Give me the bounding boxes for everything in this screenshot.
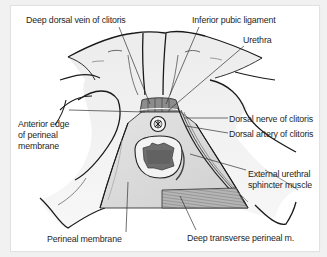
label-inferior-pubic-ligament: Inferior pubic ligament [192,14,276,25]
inferior-pubic-ligament-shape [140,98,180,112]
label-deep-transverse: Deep transverse perineal m. [187,232,294,243]
label-urethra: Urethra [243,34,271,45]
label-perineal-membrane: Perineal membrane [47,233,122,244]
label-dorsal-artery: Dorsal artery of clitoris [229,128,313,139]
label-deep-dorsal-vein: Deep dorsal vein of clitoris [26,14,126,25]
label-dorsal-nerve: Dorsal nerve of clitoris [229,113,313,124]
label-external-urethral-line2: sphincter muscle [248,179,312,190]
label-anterior-edge-line1: Anterior edge [18,118,69,129]
label-external-urethral-line1: External urethral [248,168,310,179]
label-anterior-edge-line2: of perineal [18,129,58,140]
urethra-shape [151,117,166,132]
deep-transverse-perineal-muscle-shape [162,188,248,208]
label-anterior-edge-line3: membrane [18,140,59,151]
